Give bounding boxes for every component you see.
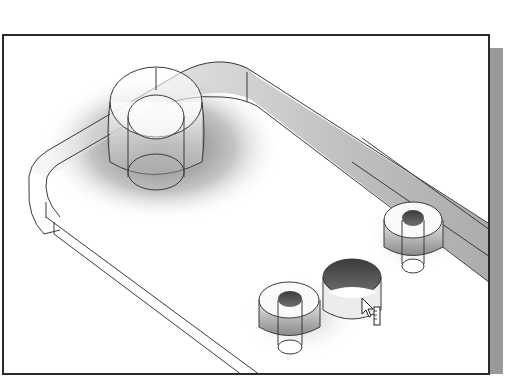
model-viewport[interactable]: 3D model viewport [2, 34, 490, 375]
small-boss-front-hole [278, 291, 302, 307]
plate-front-edge-bottom [54, 234, 242, 373]
plate-front-edge-top [46, 217, 260, 373]
boss-hole-top [128, 95, 184, 139]
highlighted-cylinder[interactable] [323, 259, 381, 319]
small-boss-right-hole [402, 210, 424, 226]
viewport-shadow [489, 48, 503, 374]
boss-hole-bottom [128, 154, 184, 190]
